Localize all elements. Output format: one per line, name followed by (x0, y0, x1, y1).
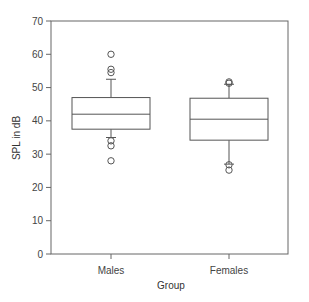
outlier-point (108, 51, 114, 57)
y-tick-label: 40 (32, 115, 44, 126)
y-tick-label: 30 (32, 149, 44, 160)
x-tick-label: Males (98, 265, 125, 276)
box-males (72, 51, 150, 164)
y-tick-label: 70 (32, 16, 44, 27)
boxes (72, 51, 268, 173)
y-tick-label: 60 (32, 49, 44, 60)
x-axis: MalesFemales (98, 254, 249, 276)
y-axis: 010203040506070 (32, 16, 51, 260)
x-tick-label: Females (210, 265, 248, 276)
y-tick-label: 10 (32, 215, 44, 226)
outlier-point (108, 158, 114, 164)
y-tick-label: 50 (32, 82, 44, 93)
y-tick-label: 20 (32, 182, 44, 193)
box-females (190, 79, 268, 174)
x-axis-title: Group (157, 280, 185, 291)
y-tick-label: 0 (37, 249, 43, 260)
box-plot: 010203040506070 MalesFemales SPL in dB G… (0, 0, 309, 302)
iqr-box (72, 98, 150, 130)
y-axis-title: SPL in dB (11, 116, 22, 160)
